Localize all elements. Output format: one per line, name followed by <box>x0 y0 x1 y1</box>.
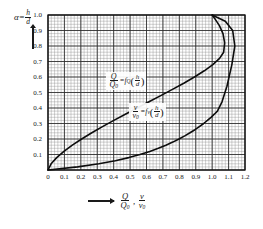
x-tick-1p2: 1.2 <box>237 173 253 181</box>
annot-q-fraction: Q Q0 <box>108 73 119 90</box>
x-tick-0p4: 0.4 <box>106 173 122 181</box>
x-tick-0p7: 0.7 <box>155 173 171 181</box>
x-tick-0p8: 0.8 <box>171 173 187 181</box>
annot-v-paren-close: ) <box>160 106 164 118</box>
chart-figure: α = h d Q Q0 , v v0 0.10.20.30.40.50.60.… <box>0 0 263 229</box>
x-tick-1p0: 1.0 <box>204 173 220 181</box>
annot-q-paren-close: ) <box>141 75 145 87</box>
y-tick-0p3: 0.3 <box>22 120 42 128</box>
annot-v-paren-open: ( <box>150 106 154 118</box>
annot-q-arg-denominator: d <box>135 81 141 88</box>
annot-q-arg-fraction: h d <box>135 74 141 88</box>
y-tick-0p2: 0.2 <box>22 135 42 143</box>
y-tick-0p1: 0.1 <box>22 151 42 159</box>
x-tick-0: 0 <box>40 173 56 181</box>
y-tick-0p4: 0.4 <box>22 104 42 112</box>
y-tick-0p7: 0.7 <box>22 58 42 66</box>
x-tick-0p6: 0.6 <box>139 173 155 181</box>
annot-v-arg-fraction: h d <box>154 105 160 119</box>
x-tick-0p3: 0.3 <box>89 173 105 181</box>
y-tick-0p8: 0.8 <box>22 42 42 50</box>
annotation-q-curve: Q Q0 = fQ ( h d ) <box>106 72 147 91</box>
annot-q-paren-open: ( <box>131 75 135 87</box>
x-tick-0p1: 0.1 <box>56 173 72 181</box>
annot-v-arg-denominator: d <box>154 112 160 119</box>
y-tick-0p9: 0.9 <box>22 27 42 35</box>
x-tick-0p5: 0.5 <box>122 173 138 181</box>
annot-q-den-sub: 0 <box>115 83 118 89</box>
x-tick-1p1: 1.1 <box>221 173 237 181</box>
x-tick-0p9: 0.9 <box>188 173 204 181</box>
y-tick-1p0: 1.0 <box>22 11 42 19</box>
x-tick-0p2: 0.2 <box>73 173 89 181</box>
y-tick-0p6: 0.6 <box>22 73 42 81</box>
y-tick-0p5: 0.5 <box>22 89 42 97</box>
annot-v-den-sub: 0 <box>136 114 139 120</box>
annot-v-fraction: v v0 <box>131 104 139 121</box>
annotation-v-curve: v v0 = fv ( h d ) <box>129 103 166 122</box>
annot-q-denominator: Q0 <box>108 81 119 89</box>
annot-v-denominator: v0 <box>131 112 139 120</box>
